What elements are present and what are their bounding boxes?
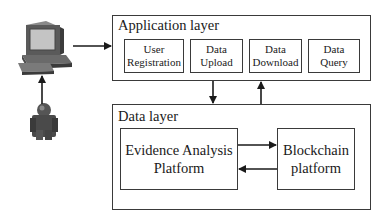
user-person-icon bbox=[26, 100, 60, 142]
blockchain-platform: Blockchain platform bbox=[277, 128, 355, 190]
module-label-line1: Data bbox=[206, 43, 227, 57]
module-label-line2: Upload bbox=[200, 56, 232, 70]
data-layer-title: Data layer bbox=[118, 108, 178, 124]
module-data-download: Data Download bbox=[249, 39, 302, 73]
module-user-registration: User Registration bbox=[124, 39, 184, 73]
module-label-line2: Query bbox=[320, 56, 348, 70]
module-label-line2: Download bbox=[253, 56, 299, 70]
module-label-line2: Registration bbox=[127, 56, 181, 70]
platform-label-line2: platform bbox=[291, 159, 341, 177]
application-layer-title: Application layer bbox=[118, 17, 219, 33]
module-data-upload: Data Upload bbox=[190, 39, 243, 73]
platform-label-line1: Blockchain bbox=[283, 141, 349, 159]
module-label-line1: User bbox=[144, 43, 165, 57]
module-label-line1: Data bbox=[324, 43, 345, 57]
platform-label-line1: Evidence Analysis bbox=[125, 141, 233, 159]
module-data-query: Data Query bbox=[308, 39, 360, 73]
desktop-computer-icon bbox=[16, 19, 76, 77]
evidence-analysis-platform: Evidence Analysis Platform bbox=[120, 128, 238, 190]
platform-label-line2: Platform bbox=[154, 159, 205, 177]
module-label-line1: Data bbox=[265, 43, 286, 57]
